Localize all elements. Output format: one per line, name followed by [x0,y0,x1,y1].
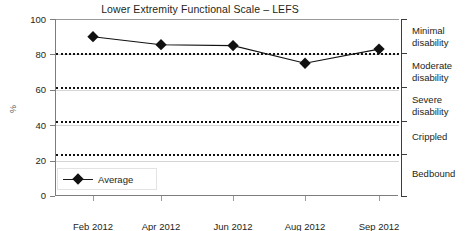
y-axis-label-60: 60 [12,84,46,95]
data-point-aug-2012 [299,58,310,69]
bracket-tick-minimal [401,53,407,54]
category-label-minimal-disability: Minimal disability [412,25,468,48]
x-axis-tick-feb-2012 [93,196,94,201]
x-axis-tick-jun-2012 [233,196,234,201]
data-point-feb-2012 [87,31,98,42]
data-point-jun-2012 [227,40,238,51]
x-axis-tick-apr-2012 [161,196,162,201]
y-axis-label-80: 80 [12,49,46,60]
x-axis-tick-sep-2012 [379,196,380,201]
bracket-tick-moderate [401,87,407,88]
x-axis-label-apr-2012: Apr 2012 [121,221,201,231]
category-label-bedbound: Bedbound [412,168,468,180]
bracket-tick-severe [401,121,407,122]
bracket-tick-bottom [401,196,407,197]
y-axis-label-0: 0 [12,190,46,201]
category-label-crippled: Crippled [412,131,468,143]
x-axis-label-sep-2012: Sep 2012 [339,221,419,231]
x-axis-label-jun-2012: Jun 2012 [193,221,273,231]
y-axis-label-40: 40 [12,120,46,131]
category-label-severe-disability: Severe disability [412,94,468,117]
category-label-minimal-line1: Minimal [412,25,445,36]
chart-figure: Lower Extremity Functional Scale – LEFS … [0,0,468,231]
y-axis-label-20: 20 [12,155,46,166]
category-label-minimal-line2: disability [412,37,448,48]
x-axis-tick-aug-2012 [305,196,306,201]
category-label-moderate-line2: disability [412,72,448,83]
y-axis-tick-0 [50,196,55,197]
chart-title: Lower Extremity Functional Scale – LEFS [0,3,400,15]
chart-legend: Average [57,168,157,190]
category-label-moderate-line1: Moderate [412,60,452,71]
category-label-severe-line2: disability [412,106,448,117]
x-axis-label-aug-2012: Aug 2012 [265,221,345,231]
data-point-sep-2012 [373,43,384,54]
category-label-moderate-disability: Moderate disability [412,60,468,83]
data-point-apr-2012 [155,39,166,50]
y-axis-title: % [8,105,18,113]
legend-label-average: Average [98,174,133,185]
bracket-tick-top [401,19,407,20]
category-bracket [401,19,402,196]
series-line-average [93,37,379,64]
category-label-severe-line1: Severe [412,94,442,105]
bracket-tick-crippled [401,154,407,155]
series-markers-average [87,31,384,69]
y-axis-label-100: 100 [12,14,46,25]
legend-marker-icon [63,173,93,185]
